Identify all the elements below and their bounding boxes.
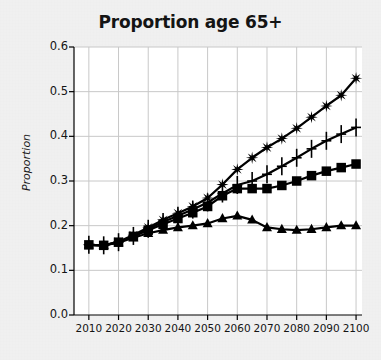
marker-square — [336, 163, 346, 173]
marker-square — [247, 184, 257, 194]
marker-square — [307, 171, 317, 181]
marker-star — [290, 122, 302, 134]
marker-square — [203, 202, 213, 212]
marker-square — [322, 166, 332, 176]
marker-square — [351, 159, 361, 169]
marker-star — [276, 132, 288, 144]
marker-square — [292, 176, 302, 186]
marker-square — [188, 208, 198, 218]
marker-star — [246, 152, 258, 164]
marker-star — [261, 141, 273, 153]
marker-star — [350, 72, 362, 84]
marker-square — [277, 181, 287, 191]
marker-star — [320, 100, 332, 112]
marker-square — [233, 184, 243, 194]
marker-star — [335, 89, 347, 101]
marker-square — [218, 191, 228, 201]
plot-area — [0, 0, 381, 360]
marker-star — [231, 163, 243, 175]
marker-star — [305, 111, 317, 123]
marker-square — [173, 214, 183, 224]
chart-figure: Proportion age 65+ Proportion 0.00.10.20… — [0, 0, 381, 360]
marker-square — [262, 184, 272, 194]
